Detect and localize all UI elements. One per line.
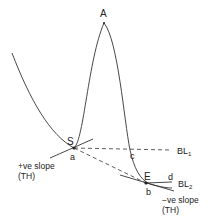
end-label: E bbox=[144, 171, 151, 182]
right-slope-label: −ve slope bbox=[162, 195, 199, 205]
start-label: S bbox=[67, 136, 74, 147]
point-d-label: d bbox=[168, 172, 173, 182]
peak-marker bbox=[103, 22, 105, 24]
baseline-1-label: BL1 bbox=[177, 146, 192, 157]
left-slope-th: (TH) bbox=[18, 171, 35, 181]
point-b-label: b bbox=[146, 187, 151, 197]
chromatogram-diagram: A S a c E b d BL1 BL2 +ve slope (TH) −ve… bbox=[0, 0, 218, 224]
baseline-1-dashed bbox=[74, 148, 170, 150]
point-c-label: c bbox=[130, 151, 135, 161]
s-to-e-dashed bbox=[74, 148, 146, 183]
baseline-2-label: BL2 bbox=[178, 179, 193, 190]
right-slope-th: (TH) bbox=[162, 205, 179, 215]
left-slope-label: +ve slope bbox=[18, 161, 55, 171]
peak-label: A bbox=[100, 8, 107, 19]
baseline-2-line bbox=[146, 182, 172, 183]
point-a-label: a bbox=[70, 152, 75, 162]
